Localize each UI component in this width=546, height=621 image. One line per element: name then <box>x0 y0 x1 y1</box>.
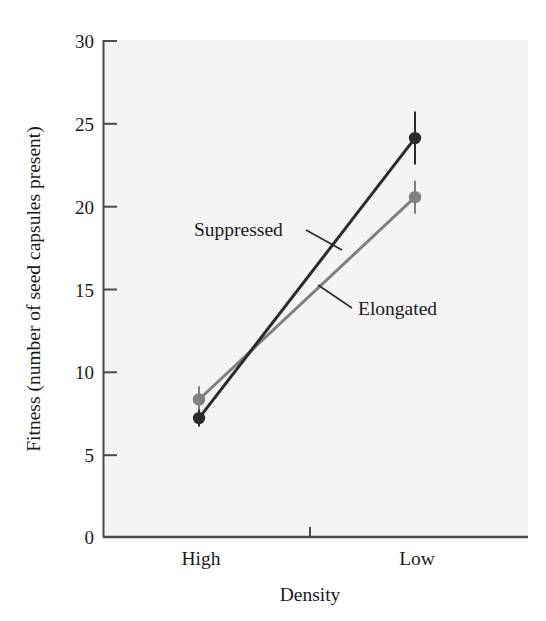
x-axis-title: Density <box>280 584 341 605</box>
y-tick-label-15: 15 <box>75 280 94 301</box>
y-axis-title: Fitness (number of seed capsules present… <box>23 126 45 451</box>
y-tick-label-30: 30 <box>75 31 94 52</box>
y-tick-label-20: 20 <box>75 197 94 218</box>
annotation-label-suppressed: Suppressed <box>194 219 283 240</box>
series-elongated-point-low <box>409 191 421 203</box>
figure-container: 30 25 20 15 10 5 0 High Low Density Fitn… <box>0 0 546 621</box>
y-tick-label-0: 0 <box>85 527 95 548</box>
y-tick-label-5: 5 <box>85 445 95 466</box>
y-tick-label-10: 10 <box>75 362 94 383</box>
x-category-label-low: Low <box>399 548 435 569</box>
series-suppressed-point-low <box>409 132 421 144</box>
series-suppressed-point-high <box>193 412 205 424</box>
y-tick-label-25: 25 <box>75 114 94 135</box>
line-chart: 30 25 20 15 10 5 0 High Low Density Fitn… <box>0 0 546 621</box>
annotation-label-elongated: Elongated <box>358 298 437 319</box>
x-category-label-high: High <box>182 548 221 569</box>
series-elongated-point-high <box>193 393 205 405</box>
